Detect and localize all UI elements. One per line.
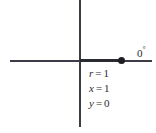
angle-label: 0° [137, 46, 146, 59]
annotation-y-variable: y [89, 97, 94, 109]
annotation-x-value: 1 [104, 82, 110, 94]
annotation-r-variable: r [89, 67, 93, 79]
annotation-list: r=1 x=1 y=0 [89, 67, 110, 109]
point-marker [118, 57, 125, 64]
coordinate-diagram: 0° r=1 x=1 y=0 [0, 0, 156, 133]
y-axis-line [79, 0, 81, 127]
annotation-r: r=1 [89, 67, 110, 79]
degree-symbol-icon: ° [143, 45, 146, 54]
annotation-x-variable: x [89, 82, 94, 94]
annotation-y-value: 0 [104, 97, 110, 109]
annotation-x: x=1 [89, 82, 110, 94]
annotation-r-operator: = [95, 67, 101, 79]
radius-segment [80, 59, 123, 62]
annotation-r-value: 1 [104, 67, 110, 79]
annotation-y: y=0 [89, 97, 110, 109]
annotation-y-operator: = [96, 97, 102, 109]
annotation-x-operator: = [96, 82, 102, 94]
